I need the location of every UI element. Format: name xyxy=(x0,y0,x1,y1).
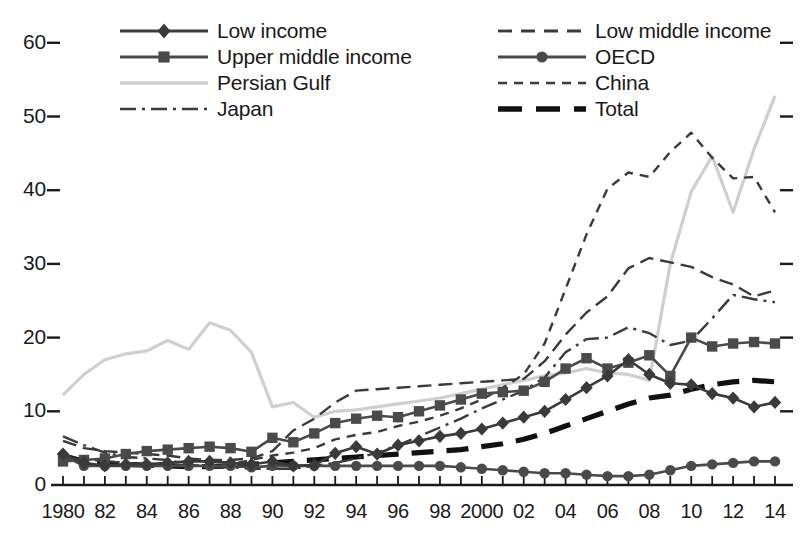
y-tick-label-30: 30 xyxy=(0,251,46,275)
y-tick-label-50: 50 xyxy=(0,104,46,128)
x-tick-label-14: 14 xyxy=(740,500,801,523)
legend-label: Persian Gulf xyxy=(217,72,330,94)
legend-item-china[interactable]: China xyxy=(496,70,771,96)
chart-container: 0102030405060 19808284868890929496982000… xyxy=(0,0,801,545)
legend-swatch-line-light-icon xyxy=(118,72,210,94)
legend-label: Upper middle income xyxy=(217,46,412,68)
legend-swatch-line-dashdot-icon xyxy=(118,98,210,120)
legend-label: Total xyxy=(595,98,638,120)
y-tick-label-0: 0 xyxy=(0,472,46,496)
legend-item-upper-middle-income[interactable]: Upper middle income xyxy=(118,44,412,70)
legend-item-persian-gulf[interactable]: Persian Gulf xyxy=(118,70,412,96)
y-tick-label-60: 60 xyxy=(0,30,46,54)
legend-swatch-line-circle-icon xyxy=(496,46,588,68)
legend-swatch-line-dashed-short-icon xyxy=(496,72,588,94)
legend-label: Japan xyxy=(217,98,273,120)
legend-item-japan[interactable]: Japan xyxy=(118,96,412,122)
legend-item-low-income[interactable]: Low income xyxy=(118,18,412,44)
legend-swatch-line-diamond-icon xyxy=(118,20,210,42)
legend-item-low-middle-income[interactable]: Low middle income xyxy=(496,18,771,44)
legend-item-oecd[interactable]: OECD xyxy=(496,44,771,70)
chart-legend: Low incomeUpper middle incomePersian Gul… xyxy=(118,18,758,122)
legend-column-left: Low incomeUpper middle incomePersian Gul… xyxy=(118,18,412,122)
y-tick-label-40: 40 xyxy=(0,177,46,201)
legend-label: OECD xyxy=(595,46,655,68)
legend-swatch-line-dashed-heavy-icon xyxy=(496,98,588,120)
legend-label: Low income xyxy=(217,20,327,42)
legend-swatch-line-square-icon xyxy=(118,46,210,68)
legend-label: China xyxy=(595,72,649,94)
legend-column-right: Low middle incomeOECDChinaTotal xyxy=(496,18,771,122)
legend-item-total[interactable]: Total xyxy=(496,96,771,122)
legend-swatch-line-dashed-long-icon xyxy=(496,20,588,42)
y-tick-label-10: 10 xyxy=(0,398,46,422)
legend-label: Low middle income xyxy=(595,20,771,42)
y-tick-label-20: 20 xyxy=(0,325,46,349)
